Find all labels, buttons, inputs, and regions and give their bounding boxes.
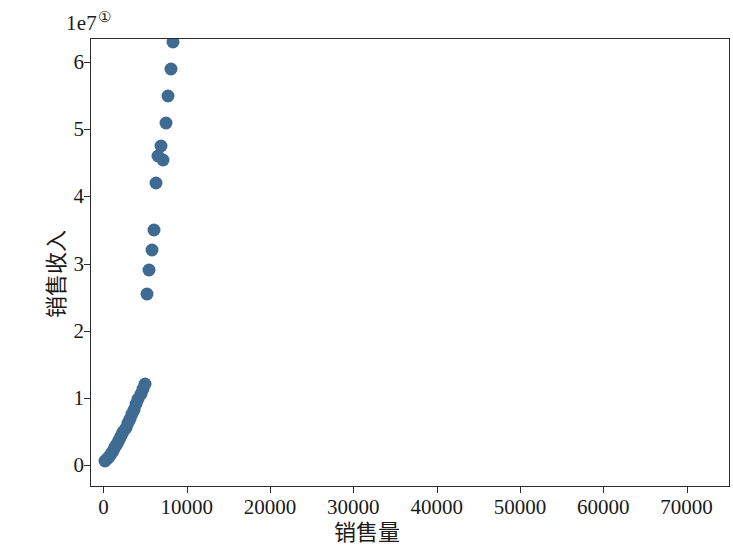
x-axis-tick (687, 486, 688, 493)
y-axis-title: 销售收入 (38, 230, 70, 318)
x-axis-tick (353, 486, 354, 493)
y-axis-tick-label: 4 (74, 184, 85, 209)
y-axis-offset-text: 1e7① (66, 8, 111, 36)
scatter-point (149, 177, 162, 190)
scatter-point (167, 39, 180, 49)
scatter-point (154, 140, 167, 153)
x-axis-tick (520, 486, 521, 493)
y-axis-tick-label: 5 (74, 117, 85, 142)
scatter-point (162, 89, 175, 102)
scatter-point (139, 378, 152, 391)
scatter-point (159, 116, 172, 129)
data-points-layer (91, 39, 729, 486)
y-axis-tick-label: 3 (74, 251, 85, 276)
y-axis-offset-value: 1e7 (66, 11, 97, 35)
y-axis-tick (84, 196, 91, 197)
y-axis-tick (84, 129, 91, 130)
x-axis-tick (103, 486, 104, 493)
scatter-point (157, 153, 170, 166)
x-axis-tick (437, 486, 438, 493)
y-axis-tick (84, 264, 91, 265)
scatter-point (148, 223, 161, 236)
x-axis-title: 销售量 (0, 514, 733, 546)
y-axis-tick-label: 2 (74, 318, 85, 343)
y-axis-tick (84, 331, 91, 332)
x-axis-tick (603, 486, 604, 493)
y-axis-tick (84, 398, 91, 399)
y-axis-tick-label: 1 (74, 385, 85, 410)
footnote-marker: ① (98, 9, 111, 25)
y-axis-tick (84, 465, 91, 466)
scatter-point (145, 244, 158, 257)
y-axis-tick (84, 62, 91, 63)
scatter-point (140, 287, 153, 300)
x-axis-tick (187, 486, 188, 493)
scatter-point (143, 264, 156, 277)
x-axis-tick (270, 486, 271, 493)
y-axis-tick-label: 6 (74, 50, 85, 75)
scatter-plot-figure: 1e7① 01234560100002000030000400005000060… (0, 0, 733, 548)
y-axis-tick-label: 0 (74, 452, 85, 477)
plot-area: 0123456010000200003000040000500006000070… (90, 38, 730, 487)
scatter-point (164, 63, 177, 76)
